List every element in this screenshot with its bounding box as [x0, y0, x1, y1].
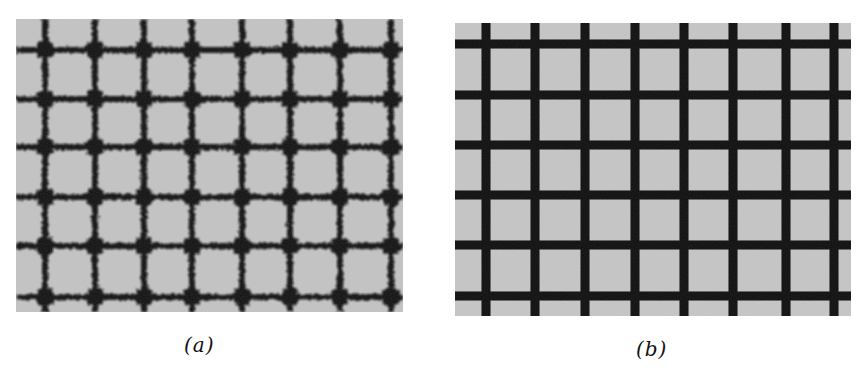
sharp-grid-image: [455, 23, 851, 316]
caption-a: (a): [184, 333, 215, 357]
figure-panel-b: [455, 23, 851, 316]
blurred-grid-image: [16, 19, 403, 312]
figure-panel-a: [16, 19, 403, 312]
caption-b: (b): [636, 337, 667, 361]
